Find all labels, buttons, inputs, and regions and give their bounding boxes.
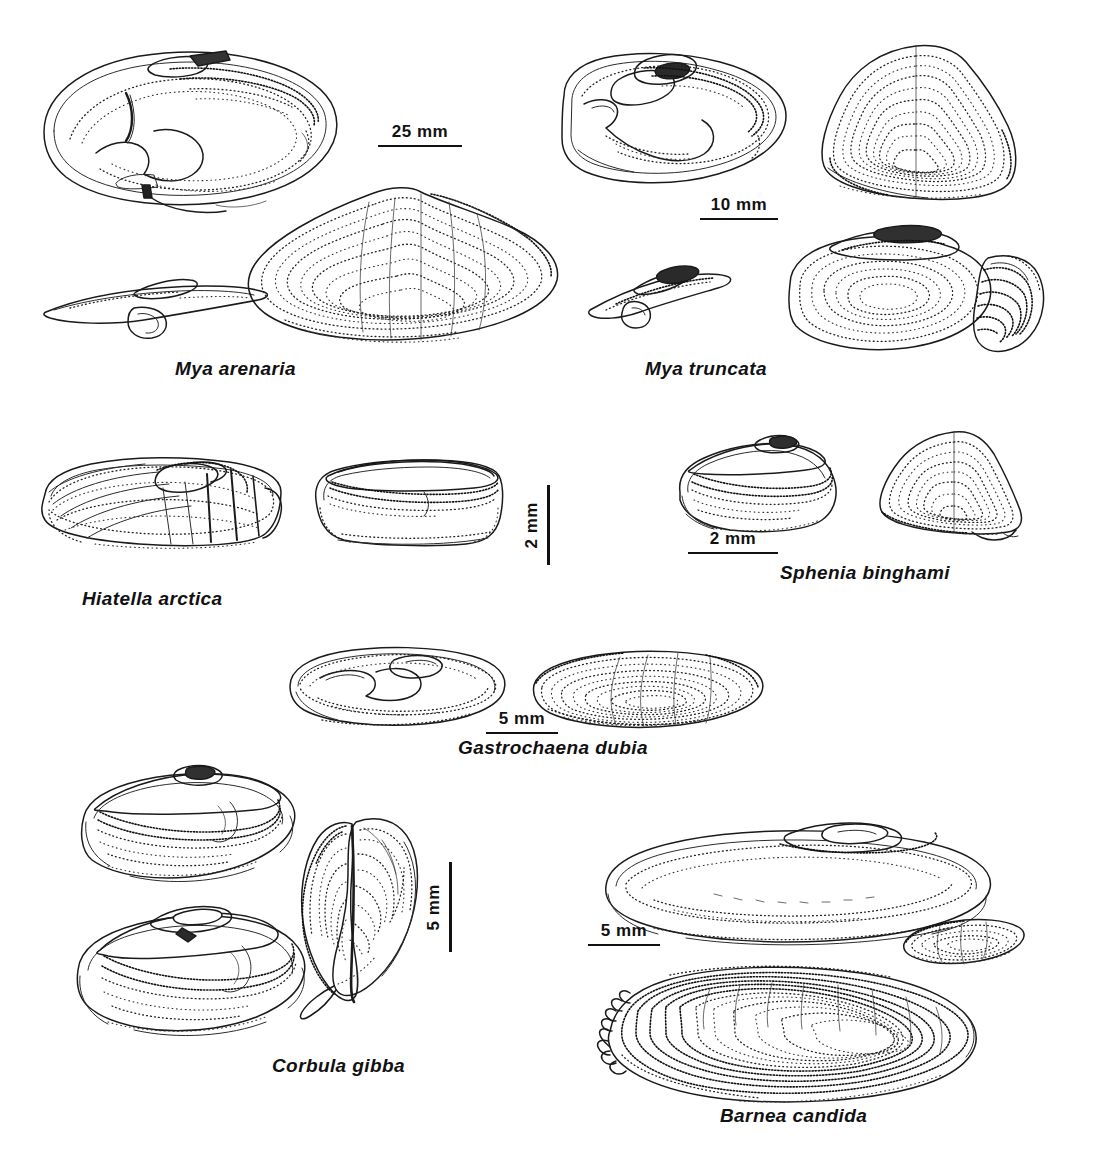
scale-bar-5mm-barnea-label: 5 mm (588, 922, 660, 941)
shell-barnea-candida-exterior (560, 955, 985, 1105)
species-label-mya-truncata: Mya truncata (645, 358, 767, 380)
scale-bar-25mm: 25 mm (378, 123, 462, 147)
scale-bar-5mm-gastrochaena-label: 5 mm (486, 710, 558, 729)
shell-mya-truncata-siphon (772, 222, 1052, 362)
scale-bar-10mm-rule (700, 218, 778, 221)
illustration-plate: Mya arenaria 25 mm (0, 0, 1098, 1151)
shell-sphenia-binghami-exterior (872, 424, 1032, 544)
scale-bar-5mm-corbula-rule (449, 862, 452, 952)
shell-gastrochaena-dubia-interior (282, 640, 512, 730)
scale-bar-10mm: 10 mm (700, 196, 778, 220)
scale-bar-5mm-corbula-label: 5 mm (424, 884, 444, 930)
scale-bar-2mm-sphenia-rule (688, 552, 778, 555)
shell-mya-truncata-interior (556, 40, 796, 195)
species-label-barnea-candida: Barnea candida (720, 1105, 867, 1127)
species-label-sphenia-binghami: Sphenia binghami (780, 562, 950, 584)
shell-hiatella-arctica-interior (308, 452, 508, 550)
shell-mya-truncata-exterior (816, 38, 1021, 203)
shell-mya-arenaria-exterior (245, 180, 565, 350)
scale-bar-25mm-rule (378, 145, 462, 148)
species-label-hiatella-arctica: Hiatella arctica (82, 588, 223, 610)
scale-bar-2mm-hiatella-label: 2 mm (522, 502, 542, 548)
shell-mya-truncata-hinge (586, 258, 736, 333)
scale-bar-2mm-hiatella: 2 mm (522, 485, 550, 565)
scale-bar-10mm-label: 10 mm (700, 196, 778, 215)
shell-hiatella-arctica-exterior (35, 448, 290, 553)
scale-bar-5mm-gastrochaena-rule (486, 732, 558, 735)
shell-gastrochaena-dubia-exterior (528, 645, 768, 731)
species-label-corbula-gibba: Corbula gibba (272, 1055, 405, 1077)
shell-sphenia-binghami-interior (672, 430, 852, 540)
shell-corbula-gibba-interior-upper (70, 762, 305, 887)
scale-bar-5mm-barnea: 5 mm (588, 922, 660, 946)
species-label-gastrochaena-dubia: Gastrochaena dubia (458, 737, 648, 759)
shell-corbula-gibba-interior-lower (70, 898, 315, 1038)
scale-bar-5mm-barnea-rule (588, 944, 660, 947)
shell-corbula-gibba-anterior (294, 812, 424, 1027)
scale-bar-5mm-corbula: 5 mm (424, 862, 452, 952)
scale-bar-5mm-gastrochaena: 5 mm (486, 710, 558, 734)
scale-bar-25mm-label: 25 mm (378, 123, 462, 142)
species-label-mya-arenaria: Mya arenaria (175, 358, 296, 380)
shell-mya-arenaria-hinge (40, 262, 275, 347)
scale-bar-2mm-sphenia-label: 2 mm (688, 530, 778, 549)
scale-bar-2mm-hiatella-rule (547, 485, 550, 565)
scale-bar-2mm-sphenia: 2 mm (688, 530, 778, 554)
